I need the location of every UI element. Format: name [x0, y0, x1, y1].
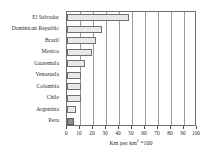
bar-series [67, 12, 195, 125]
axis-tick [196, 126, 197, 129]
category-label: Brazil [0, 37, 59, 43]
bar [67, 14, 129, 21]
value-axis-title: Km per km2 *100 [66, 139, 196, 147]
category-label: El Salvador [0, 14, 59, 20]
category-label: Colombia [0, 83, 59, 89]
axis-tick-label: 20 [89, 130, 94, 136]
plot-area [66, 11, 196, 126]
axis-tick [144, 126, 145, 129]
category-label: Chile [0, 94, 59, 100]
category-axis-labels: El SalvadorDominican RepublicBrazilMexic… [0, 11, 62, 126]
axis-tick [79, 126, 80, 129]
axis-tick [118, 126, 119, 129]
value-axis-title-suffix: *100 [139, 140, 153, 146]
axis-tick-label: 50 [128, 130, 133, 136]
axis-tick-label: 30 [102, 130, 107, 136]
bar [67, 106, 76, 113]
axis-tick [105, 126, 106, 129]
category-label: Argentina [0, 106, 59, 112]
category-label: Venezuela [0, 71, 59, 77]
axis-tick [170, 126, 171, 129]
value-axis: 0102030405060708090100 [66, 126, 196, 140]
category-label: Peru [0, 117, 59, 123]
axis-tick-label: 90 [180, 130, 185, 136]
axis-tick-label: 70 [154, 130, 159, 136]
bar-chart: El SalvadorDominican RepublicBrazilMexic… [0, 0, 204, 154]
bar [67, 118, 74, 125]
axis-tick [66, 126, 67, 129]
category-label: Dominican Republic [0, 25, 59, 31]
category-label: Mexico [0, 48, 59, 54]
value-axis-title-prefix: Km per km [110, 140, 137, 146]
bar [67, 95, 81, 102]
bar [67, 60, 85, 67]
axis-tick-label: 60 [141, 130, 146, 136]
axis-tick-label: 80 [167, 130, 172, 136]
axis-tick-label: 40 [115, 130, 120, 136]
category-label: Guatemala [0, 60, 59, 66]
axis-tick [183, 126, 184, 129]
bar [67, 49, 92, 56]
axis-tick [131, 126, 132, 129]
bar [67, 83, 81, 90]
axis-tick [157, 126, 158, 129]
bar [67, 37, 96, 44]
bar [67, 72, 81, 79]
axis-tick [92, 126, 93, 129]
axis-tick-label: 10 [76, 130, 81, 136]
bar [67, 26, 102, 33]
axis-tick-label: 0 [65, 130, 68, 136]
axis-tick-label: 100 [192, 130, 200, 136]
